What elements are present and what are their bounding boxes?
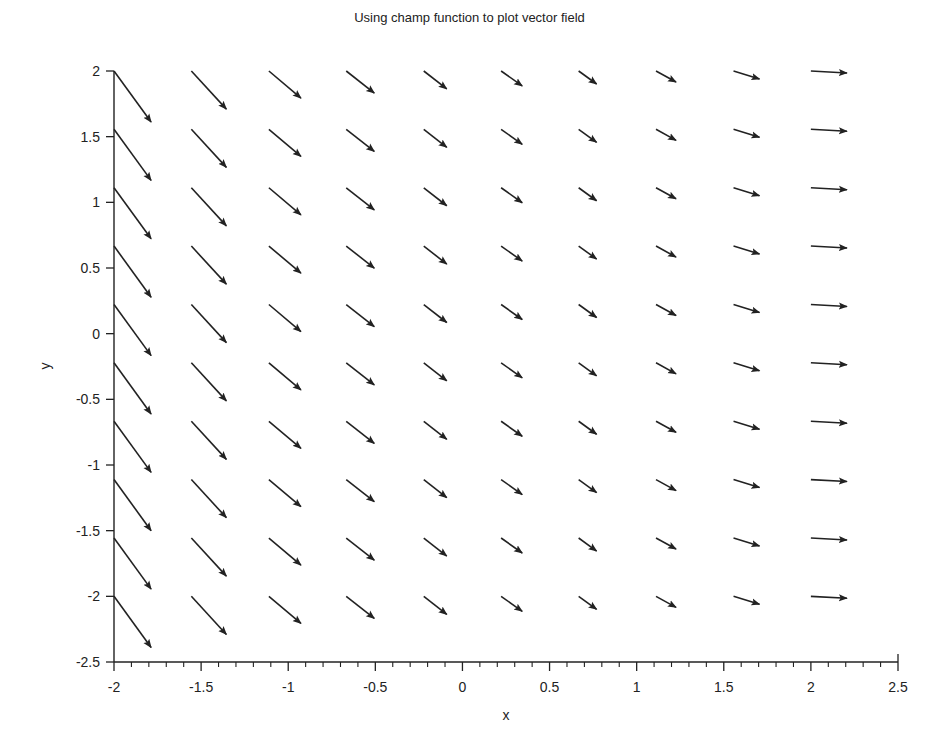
vector-arrow bbox=[114, 305, 151, 356]
vector-arrow bbox=[114, 480, 151, 531]
x-tick-label: -1.5 bbox=[189, 679, 213, 695]
vector-arrow bbox=[114, 246, 151, 297]
vector-arrow bbox=[424, 246, 447, 264]
vector-arrow bbox=[191, 71, 226, 109]
vector-arrow bbox=[269, 363, 301, 390]
vector-arrow bbox=[656, 305, 676, 316]
vector-arrow bbox=[579, 363, 597, 376]
vector-arrow bbox=[191, 421, 226, 459]
vector-arrow bbox=[269, 538, 301, 565]
vector-arrow bbox=[501, 363, 522, 378]
vector-arrow bbox=[424, 538, 447, 556]
x-axis-label: x bbox=[503, 707, 510, 723]
x-tick-label: 2.5 bbox=[888, 679, 908, 695]
vector-arrow bbox=[656, 246, 676, 257]
vector-arrow bbox=[811, 71, 847, 73]
vector-arrow bbox=[579, 246, 597, 259]
vector-arrow bbox=[269, 129, 301, 156]
vector-arrow bbox=[656, 363, 676, 374]
vector-arrow bbox=[579, 480, 597, 493]
y-tick-label: 1.5 bbox=[81, 129, 101, 145]
y-tick-label: -1 bbox=[88, 457, 101, 473]
vector-arrow bbox=[811, 421, 847, 423]
vector-arrow bbox=[269, 421, 301, 448]
vector-arrow bbox=[346, 188, 374, 210]
vector-arrow bbox=[656, 129, 676, 140]
vector-arrow bbox=[424, 421, 447, 439]
y-tick-label: -2 bbox=[88, 588, 101, 604]
vector-arrow bbox=[734, 480, 760, 488]
vector-arrow bbox=[346, 363, 374, 385]
vector-arrow bbox=[656, 188, 676, 199]
vector-arrow bbox=[114, 538, 151, 589]
vector-arrow bbox=[656, 538, 676, 549]
vector-arrow bbox=[579, 188, 597, 201]
vector-arrow bbox=[734, 129, 760, 137]
vector-arrow bbox=[501, 305, 522, 320]
vector-arrow bbox=[191, 305, 226, 343]
vector-arrow bbox=[734, 71, 760, 79]
vector-arrow bbox=[811, 596, 847, 598]
vector-arrow bbox=[656, 71, 676, 82]
y-tick-label: -0.5 bbox=[76, 391, 100, 407]
x-tick-label: 1.5 bbox=[714, 679, 734, 695]
vector-arrow bbox=[424, 188, 447, 206]
vector-arrow bbox=[734, 538, 760, 546]
x-tick-label: 2 bbox=[807, 679, 815, 695]
vector-arrow bbox=[346, 71, 374, 93]
vector-arrow bbox=[811, 480, 847, 482]
vector-arrow bbox=[114, 363, 151, 414]
vector-arrow bbox=[501, 71, 522, 86]
vector-arrow bbox=[656, 596, 676, 607]
chart: Using champ function to plot vector fiel… bbox=[0, 0, 939, 756]
vector-arrow bbox=[501, 188, 522, 203]
vector-arrow bbox=[579, 129, 597, 142]
vector-arrow bbox=[811, 305, 847, 307]
vector-arrow bbox=[346, 596, 374, 618]
vector-arrows bbox=[114, 71, 847, 647]
axes: 21.510.50-0.5-1-1.5-2-2.5-2-1.5-1-0.500.… bbox=[76, 63, 908, 695]
vector-arrow bbox=[269, 71, 301, 98]
vector-arrow bbox=[811, 246, 847, 248]
vector-arrow bbox=[579, 71, 597, 84]
y-tick-label: 0 bbox=[92, 326, 100, 342]
vector-arrow bbox=[656, 421, 676, 432]
y-tick-label: 1 bbox=[92, 194, 100, 210]
y-tick-label: 0.5 bbox=[81, 260, 101, 276]
x-tick-label: -1 bbox=[282, 679, 295, 695]
vector-arrow bbox=[811, 188, 847, 190]
vector-arrow bbox=[501, 421, 522, 436]
vector-arrow bbox=[811, 363, 847, 365]
vector-arrow bbox=[346, 421, 374, 443]
vector-arrow bbox=[346, 538, 374, 560]
vector-arrow bbox=[501, 246, 522, 261]
vector-arrow bbox=[734, 596, 760, 604]
vector-arrow bbox=[579, 305, 597, 318]
x-tick-label: -0.5 bbox=[363, 679, 387, 695]
plot-area: 21.510.50-0.5-1-1.5-2-2.5-2-1.5-1-0.500.… bbox=[0, 0, 939, 756]
vector-arrow bbox=[269, 596, 301, 623]
vector-arrow bbox=[269, 305, 301, 332]
vector-arrow bbox=[734, 363, 760, 371]
vector-arrow bbox=[191, 538, 226, 576]
vector-arrow bbox=[656, 480, 676, 491]
vector-arrow bbox=[424, 71, 447, 89]
vector-arrow bbox=[114, 71, 151, 122]
vector-arrow bbox=[811, 538, 847, 540]
vector-arrow bbox=[114, 188, 151, 239]
vector-arrow bbox=[579, 538, 597, 551]
vector-arrow bbox=[501, 538, 522, 553]
vector-arrow bbox=[579, 421, 597, 434]
vector-arrow bbox=[114, 596, 151, 647]
vector-arrow bbox=[191, 596, 226, 634]
vector-arrow bbox=[734, 188, 760, 196]
vector-arrow bbox=[424, 480, 447, 498]
vector-arrow bbox=[346, 246, 374, 268]
vector-arrow bbox=[734, 421, 760, 429]
y-tick-label: -2.5 bbox=[76, 654, 100, 670]
vector-arrow bbox=[346, 129, 374, 151]
vector-arrow bbox=[424, 305, 447, 323]
vector-arrow bbox=[501, 480, 522, 495]
x-tick-label: -2 bbox=[108, 679, 121, 695]
vector-arrow bbox=[269, 480, 301, 507]
